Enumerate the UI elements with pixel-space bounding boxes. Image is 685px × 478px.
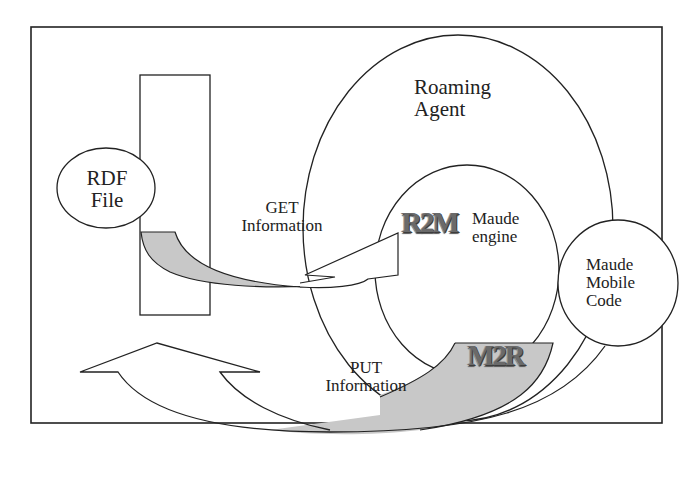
get-information-label: GET Information [232, 199, 332, 235]
r2m-converter-label: R2M [401, 205, 457, 239]
maude-mobile-code-label: Maude Mobile Code [586, 256, 635, 310]
roaming-agent-line1: Roaming [414, 76, 491, 98]
diagram-shapes [0, 0, 685, 478]
put-line1: PUT [316, 359, 416, 377]
maude-mobile-code-line1: Maude [586, 256, 635, 274]
roaming-agent-line2: Agent [414, 98, 491, 120]
maude-engine-line2: engine [472, 228, 519, 246]
diagram-canvas: Roaming Agent RDF File GET Information R… [0, 0, 685, 478]
maude-engine-label: Maude engine [472, 210, 519, 246]
get-line1: GET [232, 199, 332, 217]
m2r-converter-label: M2R [467, 338, 523, 372]
put-line2: Information [316, 377, 416, 395]
put-information-label: PUT Information [316, 359, 416, 395]
maude-mobile-code-line2: Mobile [586, 274, 635, 292]
maude-engine-line1: Maude [472, 210, 519, 228]
rdf-file-line2: File [86, 189, 128, 211]
rdf-file-label: RDF File [86, 167, 128, 211]
get-line2: Information [232, 217, 332, 235]
maude-mobile-code-line3: Code [586, 292, 635, 310]
rdf-file-line1: RDF [86, 167, 128, 189]
roaming-agent-label: Roaming Agent [414, 76, 491, 120]
